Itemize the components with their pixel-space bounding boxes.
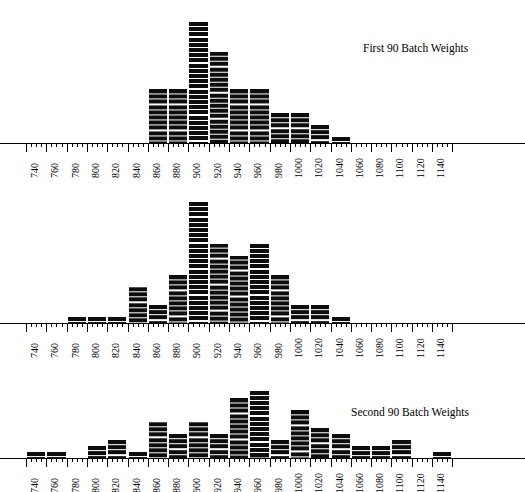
histogram-bar [87, 446, 107, 458]
axis-tick-major [209, 323, 210, 332]
histogram-bar [270, 113, 290, 143]
histogram-bar [168, 89, 188, 143]
axis-tick-minor [437, 458, 438, 462]
axis-tick-minor [133, 143, 134, 147]
axis-tick-minor [193, 458, 194, 462]
axis-tick-minor [31, 458, 32, 462]
histogram-bar [229, 256, 249, 323]
axis-tick-minor [402, 323, 403, 327]
axis-tick-major [371, 458, 372, 467]
axis-tick-label: 1000 [294, 158, 304, 178]
axis-tick-minor [51, 143, 52, 147]
axis-tick-minor [295, 458, 296, 462]
axis-tick-minor [234, 143, 235, 147]
histogram-bar [229, 398, 249, 459]
axis-tick-minor [376, 323, 377, 327]
histogram-bar [107, 440, 127, 458]
histogram-panel-second-90: Second 90 Batch Weights 7407607808008208… [0, 180, 525, 360]
axis-tick-major [290, 458, 291, 467]
axis-tick-minor [72, 458, 73, 462]
axis-tick-label: 1100 [395, 338, 405, 358]
axis-tick-label: 840 [132, 343, 142, 358]
axis-tick-major [331, 143, 332, 152]
axis-tick-major [67, 323, 68, 332]
axis-tick-label: 840 [132, 478, 142, 492]
axis-tick-minor [117, 458, 118, 462]
axis-tick-minor [72, 323, 73, 327]
axis-tick-label: 1140 [436, 338, 446, 358]
axis-tick-minor [158, 323, 159, 327]
axis-tick-minor [315, 143, 316, 147]
axis-tick-label: 740 [30, 163, 40, 178]
axis-tick-minor [158, 143, 159, 147]
axis-tick-label: 1100 [395, 158, 405, 178]
bars-first-90 [0, 0, 525, 143]
axis-tick-label: 820 [111, 343, 121, 358]
axis-tick-minor [163, 323, 164, 327]
histogram-bar [371, 446, 391, 458]
axis-tick-major [351, 143, 352, 152]
axis-tick-minor [224, 143, 225, 147]
axis-tick-minor [41, 458, 42, 462]
axis-tick-minor [31, 323, 32, 327]
axis-tick-label: 1020 [314, 473, 324, 492]
axis-tick-major [46, 143, 47, 152]
axis-tick-minor [234, 458, 235, 462]
axis-tick-minor [346, 143, 347, 147]
histogram-bar [148, 89, 168, 143]
axis-tick-minor [204, 323, 205, 327]
axis-tick-minor [102, 323, 103, 327]
histogram-figure: First 90 Batch Weights 74076078080082084… [0, 0, 525, 492]
axis-tick-minor [122, 323, 123, 327]
axis-tick-minor [102, 143, 103, 147]
axis-tick-major [270, 143, 271, 152]
axis-tick-minor [112, 323, 113, 327]
axis-tick-minor [417, 143, 418, 147]
axis-tick-minor [275, 143, 276, 147]
axis-tick-major [87, 323, 88, 332]
axis-tick-minor [41, 323, 42, 327]
axis-tick-minor [376, 143, 377, 147]
histogram-bar [188, 202, 208, 323]
axis-tick-minor [376, 458, 377, 462]
axis-tick-label: 900 [192, 343, 202, 358]
axis-tick-label: 820 [111, 163, 121, 178]
axis-tick-minor [442, 458, 443, 462]
axis-tick-major [310, 323, 311, 332]
axis-tick-minor [77, 143, 78, 147]
axis-tick-major [168, 458, 169, 467]
axis-tick-minor [97, 323, 98, 327]
axis-tick-minor [153, 458, 154, 462]
axis-tick-label: 900 [192, 163, 202, 178]
axis-tick-label: 1020 [314, 158, 324, 178]
axis-tick-minor [92, 458, 93, 462]
axis-tick-minor [214, 323, 215, 327]
histogram-bar [209, 244, 229, 323]
axis-tick-major [412, 323, 413, 332]
axis-tick-minor [366, 458, 367, 462]
axis-tick-minor [244, 143, 245, 147]
histogram-bar [168, 275, 188, 323]
axis-tick-major [452, 458, 453, 467]
histogram-bar [188, 422, 208, 458]
axis-tick-label: 940 [233, 478, 243, 492]
axis-tick-minor [336, 143, 337, 147]
axis-tick-minor [244, 458, 245, 462]
axis-tick-label: 780 [71, 478, 81, 492]
axis-tick-minor [356, 458, 357, 462]
axis-tick-minor [447, 143, 448, 147]
axis-tick-minor [346, 458, 347, 462]
axis-tick-minor [214, 143, 215, 147]
axis-tick-minor [204, 143, 205, 147]
axis-tick-minor [417, 323, 418, 327]
axis-tick-minor [199, 458, 200, 462]
axis-tick-major [290, 323, 291, 332]
axis-tick-minor [36, 458, 37, 462]
histogram-bar [209, 434, 229, 458]
axis-tick-label: 920 [213, 163, 223, 178]
axis-tick-major [128, 323, 129, 332]
axis-tick-minor [381, 143, 382, 147]
axis-tick-minor [275, 458, 276, 462]
axis-tick-label: 960 [253, 163, 263, 178]
axis-tick-minor [62, 143, 63, 147]
